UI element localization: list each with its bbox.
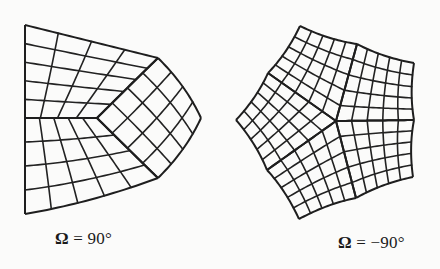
mesh-line bbox=[340, 106, 412, 110]
mesh-line bbox=[25, 99, 111, 104]
mesh-line bbox=[25, 62, 136, 79]
angle-value: 90° bbox=[88, 229, 112, 248]
top-right-block bbox=[336, 44, 414, 121]
mesh-line bbox=[411, 120, 414, 177]
mesh-line bbox=[268, 26, 300, 73]
lower-block bbox=[25, 118, 158, 214]
top-left-block bbox=[268, 26, 357, 121]
mesh-line bbox=[412, 63, 414, 120]
figure-omega-90 bbox=[25, 25, 201, 214]
equals-sign: = bbox=[69, 229, 88, 248]
mesh-line bbox=[367, 121, 377, 188]
caption-omega-90: Ω = 90° bbox=[55, 229, 112, 249]
mesh-line bbox=[367, 54, 378, 121]
upper-block bbox=[25, 25, 158, 118]
mesh-line bbox=[244, 111, 281, 160]
mesh-line bbox=[383, 57, 390, 120]
mesh-line bbox=[340, 131, 412, 137]
angle-value: −90° bbox=[371, 233, 405, 252]
mesh-line bbox=[300, 26, 357, 44]
mesh-line bbox=[348, 153, 411, 167]
mesh-line bbox=[267, 170, 299, 219]
mesh-line bbox=[25, 135, 114, 142]
left-block bbox=[236, 73, 336, 170]
mesh-line bbox=[25, 178, 158, 214]
omega-symbol: Ω bbox=[338, 233, 352, 252]
omega-symbol: Ω bbox=[55, 229, 69, 248]
mesh-line bbox=[397, 120, 400, 180]
mesh-line bbox=[349, 75, 412, 87]
mesh-line bbox=[344, 90, 411, 98]
mesh-line bbox=[398, 60, 402, 120]
equals-sign: = bbox=[352, 233, 371, 252]
mesh-line bbox=[383, 120, 389, 183]
mesh-line bbox=[336, 120, 414, 121]
mesh-line bbox=[344, 142, 411, 152]
bottom-right-block bbox=[336, 120, 414, 198]
figure-omega-minus-90 bbox=[236, 26, 414, 219]
mesh-line bbox=[25, 165, 144, 190]
caption-omega-minus-90: Ω = −90° bbox=[338, 233, 405, 253]
mesh-line bbox=[244, 83, 282, 130]
mesh-line bbox=[40, 33, 58, 118]
